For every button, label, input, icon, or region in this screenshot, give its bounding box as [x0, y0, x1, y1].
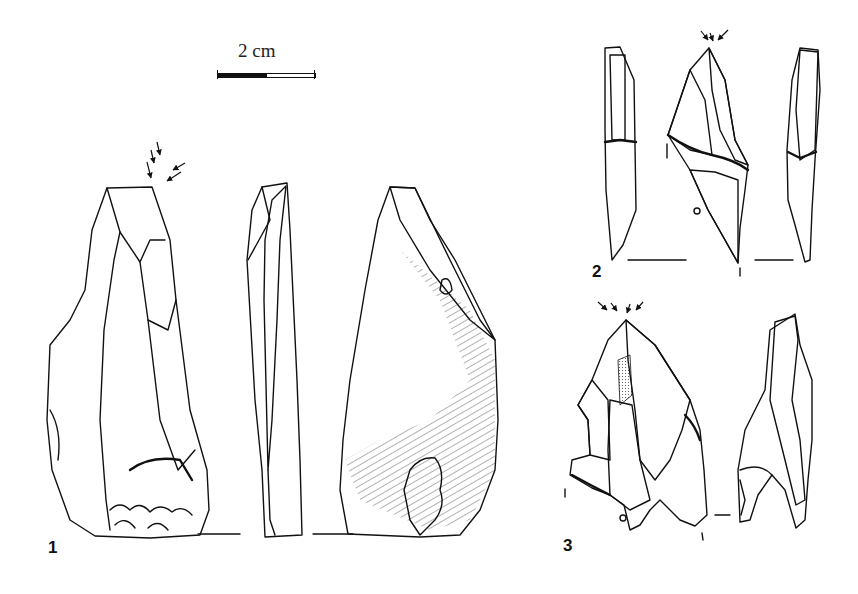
artifact-2-burin-arrows — [701, 30, 728, 41]
artifact-3-dorsal-view — [565, 320, 707, 540]
artifact-1-lateral-view — [247, 183, 353, 537]
artifact-3-lateral-view — [715, 314, 812, 528]
artifact-1-dorsal-view — [47, 187, 240, 538]
artifact-1-ventral-view — [340, 187, 498, 537]
artifact-2-dorsal-view — [667, 48, 748, 276]
artifact-1-burin-arrows — [147, 142, 185, 181]
artifact-2-left-lateral-view — [605, 47, 686, 260]
artifact-drawings — [0, 0, 858, 594]
artifact-3-burin-arrows — [598, 302, 643, 313]
artifact-2-right-lateral-view — [755, 48, 820, 262]
